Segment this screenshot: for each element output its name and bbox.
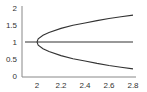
y-tick-label: 0 bbox=[13, 72, 18, 81]
x-tick-label: 2.4 bbox=[79, 81, 91, 90]
series-lines bbox=[25, 15, 133, 69]
y-tick-label: 0.5 bbox=[6, 55, 18, 64]
bifurcation-chart: 22.22.42.62.8 00.511.52 bbox=[0, 0, 147, 92]
x-tick-label: 2 bbox=[35, 81, 40, 90]
y-tick-label: 1 bbox=[13, 38, 18, 47]
x-axis-ticks: 22.22.42.62.8 bbox=[35, 81, 139, 90]
x-tick-label: 2.2 bbox=[55, 81, 67, 90]
y-tick-label: 1.5 bbox=[6, 21, 18, 30]
y-axis-ticks: 00.511.52 bbox=[6, 4, 18, 81]
series-line-1 bbox=[37, 15, 133, 42]
series-line-2 bbox=[37, 42, 133, 69]
x-tick-label: 2.8 bbox=[127, 81, 139, 90]
x-tick-label: 2.6 bbox=[103, 81, 115, 90]
y-tick-label: 2 bbox=[13, 4, 18, 13]
